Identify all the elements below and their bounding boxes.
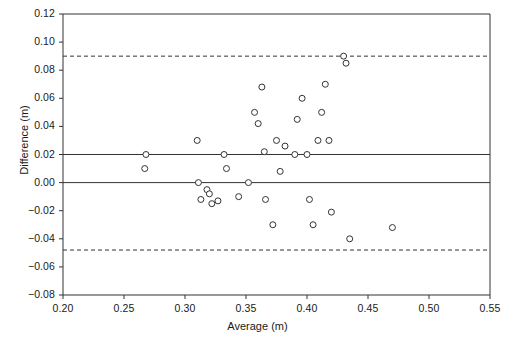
axis-ticks xyxy=(59,14,490,299)
data-point xyxy=(215,198,221,204)
reference-lines xyxy=(63,56,490,250)
data-point xyxy=(259,84,265,90)
data-point xyxy=(261,149,267,155)
y-tick-label: 0.04 xyxy=(5,119,55,131)
x-tick-label: 0.35 xyxy=(221,302,271,314)
data-point xyxy=(299,95,305,101)
y-tick-label: 0.02 xyxy=(5,148,55,160)
y-tick-label: 0.08 xyxy=(5,63,55,75)
x-tick-label: 0.45 xyxy=(343,302,393,314)
x-tick-label: 0.30 xyxy=(160,302,210,314)
data-point xyxy=(252,109,258,115)
data-point xyxy=(206,191,212,197)
data-point xyxy=(304,152,310,158)
data-point xyxy=(245,180,251,186)
x-tick-label: 0.25 xyxy=(99,302,149,314)
data-point xyxy=(277,168,283,174)
data-point xyxy=(322,81,328,87)
y-tick-label: 0.06 xyxy=(5,91,55,103)
y-tick-label: 0.12 xyxy=(5,7,55,19)
data-point xyxy=(209,201,215,207)
x-tick-label: 0.55 xyxy=(465,302,515,314)
data-point xyxy=(294,116,300,122)
data-point xyxy=(319,109,325,115)
data-point xyxy=(263,196,269,202)
data-point xyxy=(270,222,276,228)
y-tick-label: −0.06 xyxy=(5,260,55,272)
data-point xyxy=(194,137,200,143)
data-point xyxy=(306,196,312,202)
data-point xyxy=(326,137,332,143)
data-point xyxy=(341,53,347,59)
data-point xyxy=(255,121,261,127)
y-tick-label: −0.04 xyxy=(5,232,55,244)
y-tick-label: 0.00 xyxy=(5,176,55,188)
x-axis-title: Average (m) xyxy=(0,320,515,332)
plot-canvas xyxy=(0,0,515,346)
data-point xyxy=(389,225,395,231)
data-point xyxy=(310,222,316,228)
data-point xyxy=(143,152,149,158)
data-point xyxy=(142,166,148,172)
y-tick-label: −0.02 xyxy=(5,204,55,216)
data-point xyxy=(347,236,353,242)
y-axis-title: Difference (m) xyxy=(18,70,30,210)
data-point xyxy=(282,143,288,149)
y-tick-label: −0.08 xyxy=(5,288,55,300)
data-point xyxy=(328,209,334,215)
data-point xyxy=(223,166,229,172)
data-point xyxy=(221,152,227,158)
data-point xyxy=(343,60,349,66)
x-tick-label: 0.40 xyxy=(282,302,332,314)
bland-altman-scatter-figure: 0.120.100.080.060.040.020.00−0.02−0.04−0… xyxy=(0,0,515,346)
x-tick-label: 0.50 xyxy=(404,302,454,314)
data-point xyxy=(315,137,321,143)
data-point xyxy=(292,152,298,158)
data-point xyxy=(195,180,201,186)
x-tick-label: 0.20 xyxy=(38,302,88,314)
y-tick-label: 0.10 xyxy=(5,35,55,47)
data-point xyxy=(274,137,280,143)
data-point xyxy=(198,196,204,202)
data-points xyxy=(142,53,396,242)
data-point xyxy=(236,194,242,200)
